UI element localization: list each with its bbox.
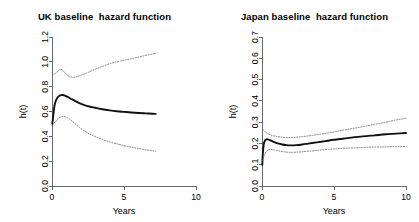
y-tick-label: 0.8: [40, 80, 50, 92]
x-axis-title: Years: [323, 206, 346, 216]
y-tick-label: 0.6: [40, 105, 50, 117]
confidence-limit-curve: [52, 53, 155, 77]
y-tick-label: 0.6: [250, 52, 260, 64]
y-tick-label: 0.1: [250, 159, 260, 171]
uk-plot-area: 0.00.20.40.60.81.01.20510Yearsh(t): [0, 0, 209, 222]
x-tick-label: 5: [122, 192, 127, 202]
x-axis-title: Years: [113, 206, 136, 216]
y-tick-label: 1.2: [40, 31, 50, 43]
y-tick-label: 0.7: [250, 31, 260, 43]
hazard-function-figure: UK baseline hazard function 0.00.20.40.6…: [0, 0, 419, 222]
y-axis-title: h(t): [228, 105, 238, 119]
confidence-limit-curve: [263, 146, 406, 160]
y-tick-label: 0.5: [250, 73, 260, 85]
y-tick-label: 0.4: [40, 130, 50, 142]
x-tick-label: 0: [260, 192, 265, 202]
hazard-curve: [52, 95, 155, 124]
y-tick-label: 0.2: [250, 137, 260, 149]
x-tick-label: 0: [50, 192, 55, 202]
y-tick-label: 0.4: [250, 95, 260, 107]
y-tick-label: 0.0: [250, 180, 260, 192]
y-axis-title: h(t): [18, 105, 28, 119]
x-tick-label: 10: [401, 192, 411, 202]
confidence-limit-curve: [52, 116, 155, 151]
x-tick-label: 10: [191, 192, 201, 202]
y-tick-label: 1.0: [40, 56, 50, 68]
y-tick-label: 0.3: [250, 116, 260, 128]
uk-panel: UK baseline hazard function 0.00.20.40.6…: [0, 0, 209, 222]
japan-panel: Japan baseline hazard function 0.00.10.2…: [210, 0, 419, 222]
x-tick-label: 5: [332, 192, 337, 202]
y-tick-label: 0.0: [40, 180, 50, 192]
y-tick-label: 0.2: [40, 155, 50, 167]
japan-plot-area: 0.00.10.20.30.40.50.60.70510Yearsh(t): [210, 0, 419, 222]
